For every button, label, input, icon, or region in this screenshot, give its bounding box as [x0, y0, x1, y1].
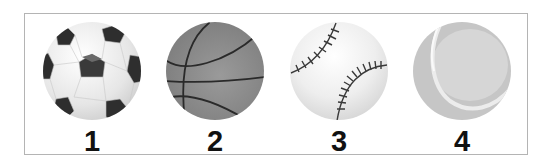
ball-label-2: 2	[160, 126, 270, 156]
ball-item-1: 1	[37, 0, 147, 166]
ball-item-4: 4	[407, 0, 517, 166]
ball-label-1: 1	[37, 126, 147, 156]
tennis-ball-icon	[412, 21, 512, 121]
ball-label-3: 3	[284, 126, 394, 156]
ball-item-2: 2	[160, 0, 270, 166]
soccer-ball-icon	[42, 21, 142, 121]
baseball-icon	[289, 21, 389, 121]
basketball-icon	[165, 21, 265, 121]
ball-label-4: 4	[407, 126, 517, 156]
ball-item-3: 3	[284, 0, 394, 166]
